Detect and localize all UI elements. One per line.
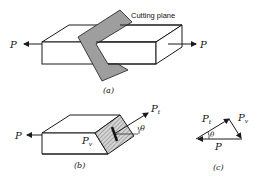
angle-label-c: θ <box>210 131 215 139</box>
label-pt-c: Pt <box>201 113 212 125</box>
force-label-tangential: Pt <box>150 103 161 115</box>
label-p-c: P <box>214 141 222 152</box>
force-label-left-b: P <box>14 130 22 141</box>
caption-b: (b) <box>74 161 85 170</box>
cutting-plane-label: Cutting plane <box>131 11 175 20</box>
panel-a: P P Cutting plane (a) <box>9 10 207 95</box>
panel-b: θ Pt Pv P (b) <box>14 103 161 170</box>
caption-a: (a) <box>103 86 114 95</box>
angle-arc-c <box>208 132 209 139</box>
angle-label-b: θ <box>140 124 145 133</box>
force-label-right-a: P <box>199 39 207 50</box>
diagram-canvas: P P Cutting plane (a) θ Pt Pv <box>0 0 255 181</box>
panel-c: θ Pt Pv P (c) <box>196 112 249 172</box>
label-pv-c: Pv <box>237 112 249 124</box>
caption-c: (c) <box>213 163 224 172</box>
force-label-left-a: P <box>9 39 17 50</box>
